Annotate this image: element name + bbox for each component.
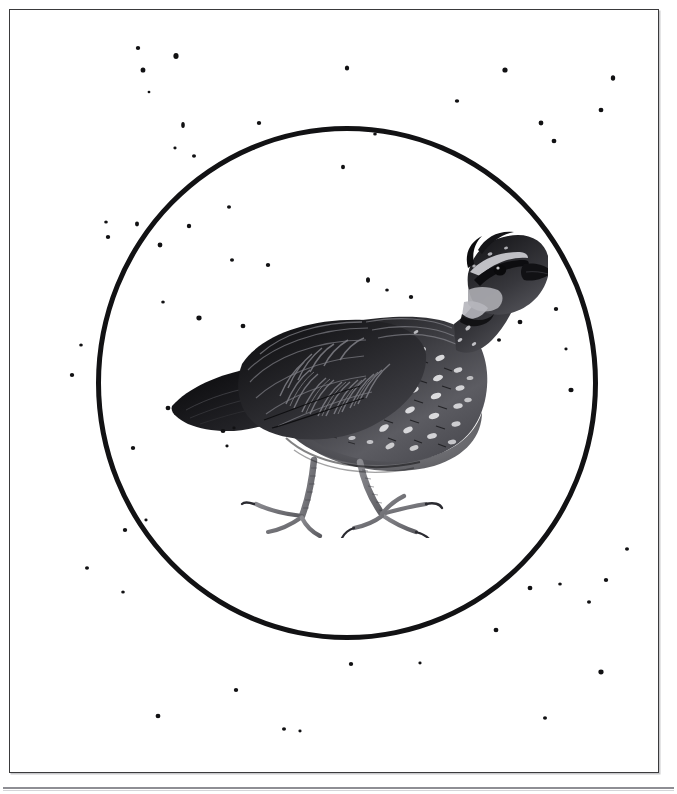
plate-page [0,0,677,794]
quail-illustration [168,228,548,538]
quail-head [460,232,548,327]
quail-legs [242,460,442,538]
quail-rear-foot [256,504,320,536]
bottom-rule-primary [3,787,674,789]
quail-eye-highlight [496,267,499,270]
bottom-rule-secondary [3,790,674,791]
quail-front-foot [354,496,426,532]
quail-eye [494,264,506,275]
